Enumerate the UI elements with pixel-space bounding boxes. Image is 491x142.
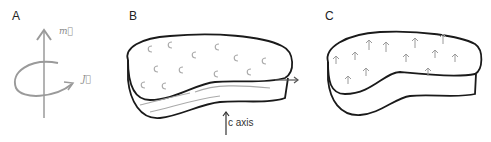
sample-c — [328, 32, 482, 115]
c-axis-arrow — [223, 112, 229, 135]
sample-b — [127, 34, 292, 118]
spin-illustration — [15, 30, 73, 118]
diagram-canvas — [0, 0, 491, 142]
